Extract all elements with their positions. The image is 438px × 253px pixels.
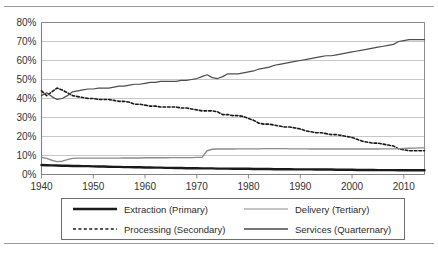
legend-label: Services (Quarternary) (295, 224, 391, 235)
y-tick-label: 20% (16, 132, 36, 142)
y-tick-label: 60% (16, 56, 36, 66)
legend-label: Delivery (Tertiary) (295, 204, 369, 215)
legend-line-icon (243, 204, 289, 214)
top-divider-rule (4, 6, 434, 7)
y-tick-label: 70% (16, 37, 36, 47)
y-tick-label: 10% (16, 151, 36, 161)
chart-figure: 0%10%20%30%40%50%60%70%80% 1940195019601… (0, 0, 438, 253)
y-tick-label: 50% (16, 75, 36, 85)
x-tick-label: 1970 (177, 182, 217, 192)
legend-item: Delivery (Tertiary) (233, 204, 404, 215)
legend-item: Processing (Secondary) (62, 224, 233, 235)
x-tick-label: 1940 (22, 182, 62, 192)
legend-entry-grid: Extraction (Primary)Delivery (Tertiary)P… (62, 199, 404, 239)
legend-line-icon (72, 224, 118, 234)
legend-label: Extraction (Primary) (124, 204, 208, 215)
legend-item: Services (Quarternary) (233, 224, 404, 235)
x-tick-label: 2000 (332, 182, 372, 192)
bottom-divider-rule (4, 243, 434, 244)
x-axis-tick-marks (42, 175, 404, 179)
x-tick-label: 1980 (229, 182, 269, 192)
y-tick-label: 30% (16, 113, 36, 123)
x-tick-label: 1990 (280, 182, 320, 192)
y-tick-label: 40% (16, 94, 36, 104)
line-chart-svg (0, 12, 438, 192)
x-tick-label: 1950 (73, 182, 113, 192)
legend-line-icon (243, 224, 289, 234)
x-tick-label: 2010 (384, 182, 424, 192)
y-tick-label: 0% (22, 170, 36, 180)
y-tick-label: 80% (16, 18, 36, 28)
legend-item: Extraction (Primary) (62, 204, 233, 215)
x-tick-label: 1960 (125, 182, 165, 192)
legend-line-icon (72, 204, 118, 214)
legend-label: Processing (Secondary) (124, 224, 225, 235)
chart-plot-container: 0%10%20%30%40%50%60%70%80% 1940195019601… (0, 12, 438, 192)
chart-legend: Extraction (Primary)Delivery (Tertiary)P… (61, 198, 405, 240)
